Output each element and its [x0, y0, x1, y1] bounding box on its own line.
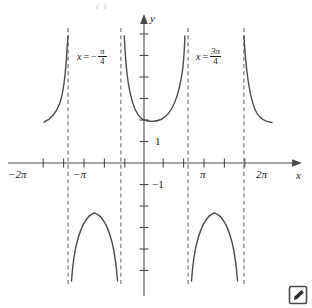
- fraction-numerator: π: [99, 47, 106, 56]
- asymptote-label-variable: x: [196, 52, 200, 62]
- x-tick-label-2pi: 2π: [256, 169, 267, 180]
- x-axis-arrowhead: [292, 159, 302, 167]
- axes-group: [8, 14, 302, 296]
- asymptote-label-fraction: π 4: [98, 47, 107, 67]
- y-axis-label: y: [150, 13, 155, 24]
- x-tick-label-pi: π: [200, 169, 206, 180]
- curve-branches: [44, 36, 272, 281]
- right-center-asymptote-label: x = 3π 4: [196, 47, 221, 67]
- upper-right-branch: [244, 36, 272, 123]
- asymptote-label-equals: =: [83, 52, 89, 62]
- upper-left-branch: [44, 36, 68, 122]
- asymptote-label-equals: =: [202, 52, 208, 62]
- fraction-denominator: 4: [99, 57, 106, 66]
- asymptote-label-variable: x: [77, 52, 81, 62]
- fraction-numerator: 3π: [210, 47, 221, 56]
- asymptote-label-fraction: 3π 4: [210, 47, 221, 67]
- y-tick-label-one: 1: [155, 136, 161, 147]
- left-center-asymptote-label: x = − π 4: [77, 47, 107, 67]
- lower-left-branch: [72, 213, 118, 281]
- y-axis-arrowhead: [140, 14, 148, 24]
- secant-function-graph-figure: ( ): [0, 0, 312, 308]
- x-axis-label: x: [296, 170, 301, 181]
- asymptote-label-sign: −: [91, 52, 97, 62]
- edit-badge-frame: [290, 287, 307, 304]
- x-tick-label-neg-2pi: −2π: [8, 169, 26, 180]
- upper-center-branch: [124, 36, 185, 121]
- y-tick-label-neg-one: −1: [152, 179, 164, 190]
- graph-canvas: [0, 0, 312, 308]
- x-tick-label-neg-pi: −π: [73, 169, 86, 180]
- fraction-denominator: 4: [212, 57, 219, 66]
- lower-right-branch: [192, 213, 238, 281]
